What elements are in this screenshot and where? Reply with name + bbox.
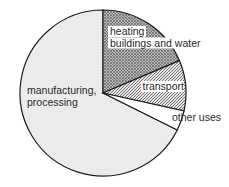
label-heating-line2: buildings and water <box>110 37 201 49</box>
label-transport: transport <box>143 80 185 92</box>
label-manufacturing-line2: processing <box>27 96 78 108</box>
label-heating-line1: heating <box>110 25 145 37</box>
pie-chart: heating buildings and water transport ot… <box>0 0 229 187</box>
label-other-uses: other uses <box>172 111 221 123</box>
label-manufacturing-line1: manufacturing, <box>27 84 96 96</box>
